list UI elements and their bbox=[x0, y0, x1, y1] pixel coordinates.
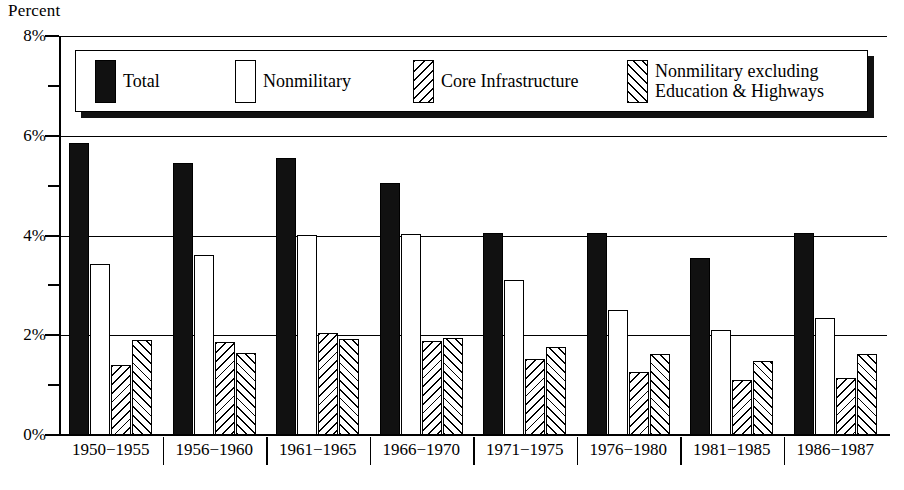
bar bbox=[276, 158, 296, 435]
legend-item: Core Infrastructure bbox=[413, 51, 578, 111]
y-axis-label-0: 0% bbox=[23, 426, 46, 443]
bar-chart: Percent 8%6%4%2%0% 1950−19551956−1960196… bbox=[0, 0, 904, 490]
legend-label: Core Infrastructure bbox=[441, 71, 578, 91]
legend-label: Total bbox=[123, 71, 160, 91]
legend-swatch-icon bbox=[627, 60, 648, 103]
y-tick-major-8 bbox=[45, 35, 59, 37]
bar bbox=[297, 235, 317, 435]
legend-item: Nonmilitary excluding Education & Highwa… bbox=[627, 51, 824, 111]
bar bbox=[711, 330, 731, 435]
y-tick-minor-5 bbox=[48, 185, 59, 187]
x-axis-label: 1986−1987 bbox=[784, 437, 888, 463]
y-tick-major-0 bbox=[45, 434, 59, 436]
bar bbox=[69, 143, 89, 435]
bar bbox=[546, 347, 566, 435]
bar bbox=[732, 380, 752, 435]
bar bbox=[401, 234, 421, 435]
legend-swatch-icon bbox=[95, 60, 116, 103]
y-tick-major-4 bbox=[45, 235, 59, 237]
x-axis-label: 1971−1975 bbox=[473, 437, 577, 463]
x-axis-label: 1976−1980 bbox=[577, 437, 681, 463]
x-axis-label: 1950−1955 bbox=[59, 437, 163, 463]
x-axis-label: 1961−1965 bbox=[266, 437, 370, 463]
bar bbox=[339, 339, 359, 435]
legend-label: Nonmilitary bbox=[263, 71, 351, 91]
bar bbox=[815, 318, 835, 435]
bar bbox=[525, 359, 545, 435]
x-axis-label: 1966−1970 bbox=[370, 437, 474, 463]
bar bbox=[111, 365, 131, 435]
y-axis-title: Percent bbox=[8, 2, 60, 20]
legend-swatch-icon bbox=[235, 60, 256, 103]
y-tick-major-2 bbox=[45, 334, 59, 336]
legend-item: Nonmilitary bbox=[235, 51, 351, 111]
bar bbox=[236, 353, 256, 435]
bar bbox=[215, 342, 235, 435]
y-tick-minor-1 bbox=[48, 384, 59, 386]
bar bbox=[650, 354, 670, 435]
y-axis-label-2: 2% bbox=[23, 326, 46, 343]
bar bbox=[380, 183, 400, 435]
y-axis-label-8: 8% bbox=[23, 27, 46, 44]
bar bbox=[318, 333, 338, 435]
bar bbox=[483, 233, 503, 435]
bar bbox=[753, 361, 773, 435]
bar bbox=[587, 233, 607, 435]
bar bbox=[90, 264, 110, 435]
chart-legend: TotalNonmilitaryCore InfrastructureNonmi… bbox=[75, 50, 868, 112]
y-tick-major-6 bbox=[45, 135, 59, 137]
bar bbox=[690, 258, 710, 435]
y-tick-minor-7 bbox=[48, 85, 59, 87]
bar bbox=[173, 163, 193, 435]
bar bbox=[794, 233, 814, 435]
bar bbox=[836, 378, 856, 435]
y-axis-label-6: 6% bbox=[23, 127, 46, 144]
bar bbox=[422, 341, 442, 435]
x-axis-label: 1981−1985 bbox=[680, 437, 784, 463]
x-axis-label: 1956−1960 bbox=[163, 437, 267, 463]
y-tick-minor-3 bbox=[48, 284, 59, 286]
bar bbox=[608, 310, 628, 435]
bar bbox=[857, 354, 877, 435]
legend-swatch-icon bbox=[413, 60, 434, 103]
legend-label: Nonmilitary excluding Education & Highwa… bbox=[655, 61, 824, 101]
bar bbox=[504, 280, 524, 435]
bar bbox=[443, 338, 463, 435]
bar bbox=[194, 255, 214, 435]
y-axis-label-4: 4% bbox=[23, 227, 46, 244]
legend-item: Total bbox=[95, 51, 160, 111]
bar bbox=[629, 372, 649, 435]
bar bbox=[132, 340, 152, 435]
